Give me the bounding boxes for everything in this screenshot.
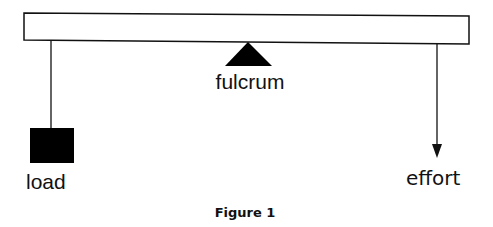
fulcrum-label: fulcrum xyxy=(210,70,290,94)
load-label: load xyxy=(26,170,66,194)
fulcrum-triangle xyxy=(225,42,272,66)
effort-arrow-icon xyxy=(432,144,442,158)
lever-drawing xyxy=(0,0,493,227)
load-block xyxy=(30,128,74,163)
lever-diagram: fulcrum load effort Figure 1 xyxy=(0,0,493,227)
lever-beam xyxy=(24,13,469,44)
figure-caption: Figure 1 xyxy=(205,205,285,220)
effort-label: effort xyxy=(406,166,460,190)
